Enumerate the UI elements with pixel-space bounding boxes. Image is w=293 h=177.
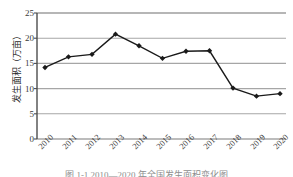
y-axis-tick-label: 5 bbox=[30, 109, 35, 119]
y-axis-tick-label: 20 bbox=[25, 33, 34, 43]
y-axis-tick-labels: 0510152025 bbox=[0, 0, 34, 177]
data-point-marker bbox=[183, 49, 188, 54]
y-axis-tick-label: 25 bbox=[25, 8, 34, 18]
y-axis-tick-label: 15 bbox=[25, 58, 34, 68]
data-point-marker bbox=[160, 56, 165, 61]
gridlines bbox=[37, 13, 286, 139]
figure-caption: 图 1-1 2010—2020 年全国发生面积变化图 bbox=[0, 168, 293, 177]
y-axis-tick-label: 0 bbox=[30, 134, 35, 144]
plot-area bbox=[0, 0, 293, 177]
data-point-marker bbox=[136, 43, 141, 48]
y-axis-tick-label: 10 bbox=[25, 84, 34, 94]
data-point-marker bbox=[66, 54, 71, 59]
data-point-marker bbox=[277, 91, 282, 96]
data-point-marker bbox=[42, 65, 47, 70]
line-chart: 发生面积（万亩） 0510152025 20102011201220132014… bbox=[0, 0, 293, 177]
data-point-marker bbox=[254, 93, 259, 98]
data-series-line bbox=[45, 34, 280, 96]
